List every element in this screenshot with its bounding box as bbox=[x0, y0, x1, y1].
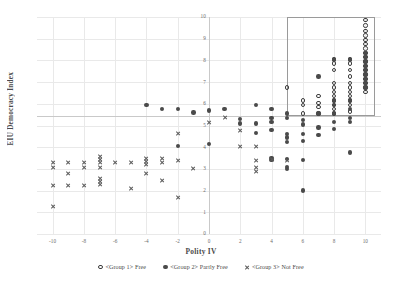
y-axis-line bbox=[209, 17, 210, 234]
data-point-series-2 bbox=[316, 133, 320, 137]
gridline-vertical bbox=[272, 17, 273, 234]
gridline-vertical bbox=[178, 17, 179, 234]
x-axis-line bbox=[37, 116, 381, 117]
y-tick-label: 2 bbox=[194, 188, 206, 193]
legend-item-2[interactable]: <Group 2> Partly Free bbox=[163, 264, 228, 270]
x-tick-label: 8 bbox=[326, 238, 342, 244]
y-tick-label: 8 bbox=[194, 58, 206, 63]
legend-item-label: <Group 3> Not Free bbox=[252, 264, 304, 270]
highlight-rectangle bbox=[287, 17, 375, 116]
y-tick-label: 1 bbox=[194, 210, 206, 215]
filled-circle-icon bbox=[163, 265, 168, 270]
plot-area: 012345678910-10-8-6-4-20246810 bbox=[37, 17, 381, 234]
data-point-series-2 bbox=[160, 107, 164, 111]
y-axis-title-text: EIU Democracy Index bbox=[7, 72, 15, 145]
y-tick-label: 4 bbox=[194, 145, 206, 150]
legend-item-1[interactable]: <Group 1> Free bbox=[98, 264, 146, 270]
data-point-series-3 bbox=[97, 182, 101, 186]
x-tick-label: 2 bbox=[232, 238, 248, 244]
data-point-series-3 bbox=[97, 176, 101, 180]
data-point-series-2 bbox=[285, 157, 289, 161]
y-tick-label: 10 bbox=[194, 14, 206, 19]
data-point-series-3 bbox=[97, 160, 101, 164]
data-point-series-2 bbox=[348, 150, 352, 154]
x-tick-label: 10 bbox=[357, 238, 373, 244]
legend-item-label: <Group 1> Free bbox=[105, 264, 146, 270]
y-tick-label: 9 bbox=[194, 36, 206, 41]
x-tick-label: -4 bbox=[138, 238, 154, 244]
data-point-series-2 bbox=[254, 131, 258, 135]
scatter-chart-figure: EIU Democracy Index 012345678910-10-8-6-… bbox=[0, 0, 402, 293]
y-tick-label: 3 bbox=[194, 166, 206, 171]
data-point-series-3 bbox=[160, 160, 164, 164]
data-point-series-3 bbox=[97, 155, 101, 159]
x-tick-label: -6 bbox=[107, 238, 123, 244]
data-point-series-3 bbox=[97, 180, 101, 184]
data-point-series-3 bbox=[254, 158, 258, 162]
data-point-series-3 bbox=[160, 156, 164, 160]
data-point-series-3 bbox=[160, 179, 164, 183]
y-tick-label: 0 bbox=[194, 231, 206, 236]
data-point-series-2 bbox=[348, 120, 352, 124]
gridline-vertical bbox=[146, 17, 147, 234]
x-tick-label: 4 bbox=[264, 238, 280, 244]
data-point-series-3 bbox=[285, 158, 289, 162]
y-tick-label: 7 bbox=[194, 80, 206, 85]
data-point-series-2 bbox=[191, 110, 195, 114]
x-tick-label: 0 bbox=[201, 238, 217, 244]
cross-icon bbox=[245, 265, 250, 270]
data-point-series-3 bbox=[66, 160, 70, 164]
open-circle-icon bbox=[98, 265, 103, 270]
x-tick-label: -8 bbox=[76, 238, 92, 244]
data-point-series-3 bbox=[66, 171, 70, 175]
x-tick-label: -10 bbox=[45, 238, 61, 244]
data-point-series-2 bbox=[285, 132, 289, 136]
x-tick-label: -2 bbox=[170, 238, 186, 244]
gridline-horizontal bbox=[37, 234, 381, 235]
data-point-series-2 bbox=[285, 140, 289, 144]
gridline-vertical bbox=[240, 17, 241, 234]
data-point-series-3 bbox=[129, 160, 133, 164]
data-point-series-2 bbox=[222, 107, 226, 111]
x-axis-title: Polity IV bbox=[0, 247, 402, 256]
data-point-series-3 bbox=[97, 157, 101, 161]
y-tick-label: 5 bbox=[194, 123, 206, 128]
x-tick-label: 6 bbox=[295, 238, 311, 244]
data-point-series-3 bbox=[66, 183, 70, 187]
y-axis-title: EIU Democracy Index bbox=[5, 0, 17, 217]
legend-item-3[interactable]: <Group 3> Not Free bbox=[245, 264, 304, 270]
gridline-vertical bbox=[53, 17, 54, 234]
y-tick-label: 6 bbox=[194, 101, 206, 106]
data-point-series-2 bbox=[285, 135, 289, 139]
legend-item-label: <Group 2> Partly Free bbox=[170, 264, 228, 270]
gridline-vertical bbox=[115, 17, 116, 234]
chart-legend: <Group 1> Free<Group 2> Partly Free<Grou… bbox=[0, 264, 402, 270]
gridline-vertical bbox=[84, 17, 85, 234]
